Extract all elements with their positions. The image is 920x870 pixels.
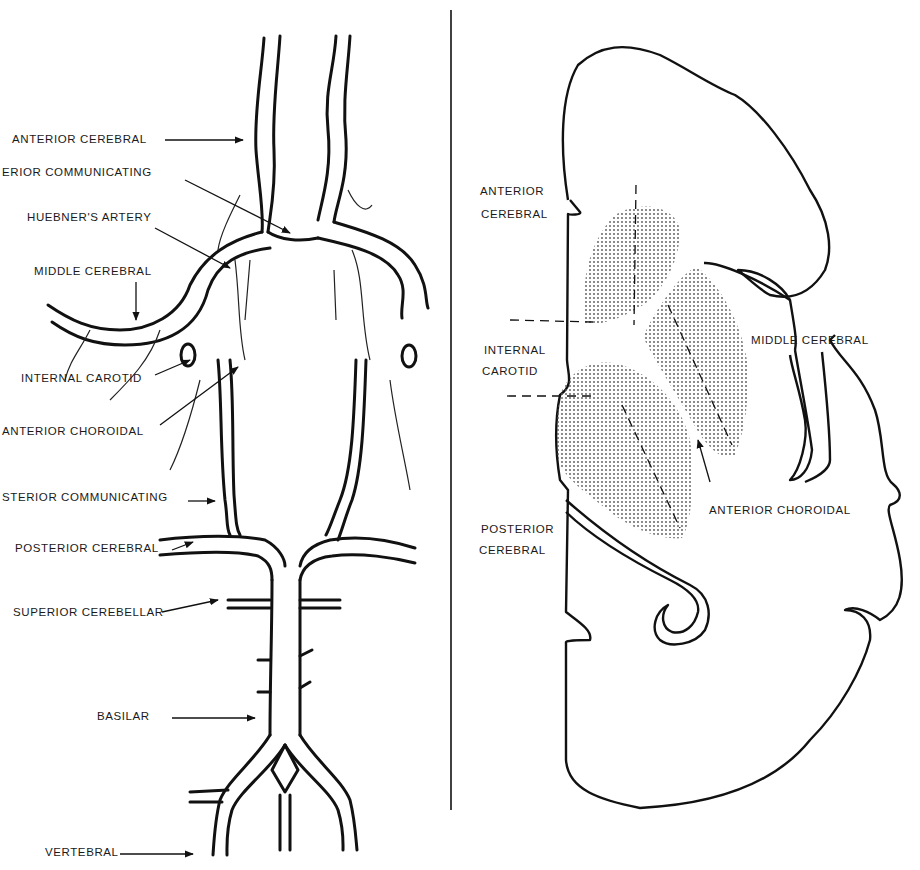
label-rp-anterior: ANTERIOR xyxy=(480,181,544,201)
coronal-section-drawing xyxy=(507,47,902,808)
label-rp-posterior-cerebral: CEREBRAL xyxy=(479,540,546,560)
label-anterior-communicating: ERIOR COMMUNICATING xyxy=(2,162,152,182)
internal-carotid-territory xyxy=(556,362,692,538)
label-anterior-cerebral: ANTERIOR CEREBRAL xyxy=(12,129,147,149)
label-rp-anterior-cerebral: CEREBRAL xyxy=(481,204,548,224)
label-rp-middle-cerebral: MIDDLE CEREBRAL xyxy=(751,330,869,350)
label-huebners-artery: HUEBNER'S ARTERY xyxy=(27,207,152,227)
label-rp-posterior: POSTERIOR xyxy=(481,519,554,539)
label-superior-cerebellar: SUPERIOR CEREBELLAR xyxy=(13,602,164,622)
label-posterior-cerebral: POSTERIOR CEREBRAL xyxy=(15,538,159,558)
label-internal-carotid: INTERNAL CAROTID xyxy=(21,368,142,388)
label-vertebral: VERTEBRAL xyxy=(45,842,119,862)
circle-of-willis-drawing xyxy=(48,36,428,855)
label-anterior-choroidal: ANTERIOR CHOROIDAL xyxy=(2,421,144,441)
label-rp-carotid: CAROTID xyxy=(482,361,538,381)
label-rp-anterior-choroidal: ANTERIOR CHOROIDAL xyxy=(709,500,851,520)
label-posterior-communicating: STERIOR COMMUNICATING xyxy=(2,487,168,507)
label-middle-cerebral: MIDDLE CEREBRAL xyxy=(34,261,152,281)
label-basilar: BASILAR xyxy=(97,706,150,726)
label-rp-internal: INTERNAL xyxy=(484,340,546,360)
